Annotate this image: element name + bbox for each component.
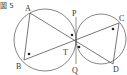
angle-mark-t-lower (78, 46, 81, 49)
angle-mark-t-upper (71, 34, 74, 37)
label-b: B (16, 62, 21, 71)
geometry-diagram: 圖 5 A B C D P Q T (0, 0, 127, 75)
label-p: P (72, 9, 77, 18)
label-d: D (113, 65, 119, 74)
label-c: C (119, 14, 124, 23)
line-bc (24, 23, 119, 60)
angle-mark-b (28, 53, 31, 56)
label-t: T (63, 48, 68, 57)
label-q: Q (72, 66, 78, 75)
figure-caption: 圖 5 (0, 2, 14, 10)
left-circle (14, 9, 76, 71)
angle-mark-c (112, 28, 115, 31)
label-a: A (25, 4, 31, 13)
